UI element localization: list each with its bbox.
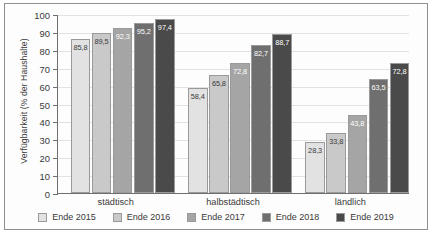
- bar[interactable]: 85,8: [71, 39, 91, 193]
- y-axis-tick-label: 80: [40, 45, 50, 56]
- chart-figure: Verfügbarkeit (% der Haushalte) 01020304…: [4, 3, 428, 230]
- bar-value-label: 63,5: [371, 83, 385, 92]
- bar-value-label: 72,8: [393, 67, 407, 76]
- y-axis-tick-label: 50: [40, 99, 50, 110]
- bar[interactable]: 89,5: [92, 33, 112, 193]
- legend-item[interactable]: Ende 2016: [113, 212, 171, 222]
- y-axis-tick: [53, 194, 58, 195]
- legend-swatch: [336, 213, 345, 222]
- legend-item[interactable]: Ende 2019: [336, 212, 394, 222]
- bar-value-label: 28,3: [308, 146, 322, 155]
- bar-value-label: 82,7: [254, 49, 268, 58]
- bar[interactable]: 88,7: [272, 34, 292, 193]
- plot-area: 010203040506070809010085,889,592,395,297…: [57, 15, 409, 194]
- bar[interactable]: 82,7: [251, 45, 271, 193]
- bar[interactable]: 72,8: [390, 63, 410, 193]
- bar-value-label: 95,2: [137, 27, 151, 36]
- bar[interactable]: 72,8: [230, 63, 250, 193]
- y-axis-tick-label: 60: [40, 81, 50, 92]
- legend-item[interactable]: Ende 2015: [38, 212, 96, 222]
- bar-value-label: 72,8: [233, 67, 247, 76]
- y-axis-tick-label: 90: [40, 27, 50, 38]
- bar[interactable]: 43,8: [348, 115, 368, 193]
- bar[interactable]: 95,2: [134, 23, 154, 193]
- bar-value-label: 97,4: [158, 23, 172, 32]
- y-axis-tick-label: 10: [40, 171, 50, 182]
- legend-swatch: [113, 213, 122, 222]
- bar[interactable]: 63,5: [369, 79, 389, 193]
- bar-group: 85,889,592,395,297,4: [58, 15, 175, 193]
- bar-value-label: 85,8: [73, 43, 87, 52]
- y-axis-tick-label: 20: [40, 153, 50, 164]
- legend-swatch: [38, 213, 47, 222]
- legend-label: Ende 2016: [127, 212, 171, 222]
- bar[interactable]: 28,3: [305, 142, 325, 193]
- bar-value-label: 92,3: [116, 32, 130, 41]
- bar-group: 58,465,872,882,788,7: [175, 15, 292, 193]
- y-axis-tick-label: 100: [34, 10, 50, 21]
- bar-value-label: 58,4: [191, 92, 205, 101]
- legend-label: Ende 2018: [276, 212, 320, 222]
- legend-item[interactable]: Ende 2017: [187, 212, 245, 222]
- y-axis-tick-label: 70: [40, 63, 50, 74]
- bar-group: 28,333,843,863,572,8: [293, 15, 410, 193]
- bar[interactable]: 97,4: [155, 19, 175, 193]
- x-axis-category-label: städtisch: [57, 197, 174, 207]
- bar[interactable]: 58,4: [188, 88, 208, 193]
- bar[interactable]: 33,8: [326, 133, 346, 194]
- bar[interactable]: 65,8: [209, 75, 229, 193]
- bar-value-label: 33,8: [329, 137, 343, 146]
- legend-item[interactable]: Ende 2018: [262, 212, 320, 222]
- legend-swatch: [187, 213, 196, 222]
- legend-label: Ende 2019: [350, 212, 394, 222]
- y-axis-tick-label: 30: [40, 135, 50, 146]
- y-axis-tick-label: 0: [45, 189, 50, 200]
- x-axis-category-label: ländlich: [292, 197, 409, 207]
- y-axis-title: Verfügbarkeit (% der Haushalte): [19, 16, 29, 186]
- legend-swatch: [262, 213, 271, 222]
- bar-value-label: 43,8: [350, 119, 364, 128]
- bar-value-label: 88,7: [275, 38, 289, 47]
- bar[interactable]: 92,3: [113, 28, 133, 193]
- bar-value-label: 65,8: [212, 79, 226, 88]
- legend-label: Ende 2017: [201, 212, 245, 222]
- chart-legend: Ende 2015Ende 2016Ende 2017Ende 2018Ende…: [5, 212, 427, 222]
- y-axis-tick-label: 40: [40, 117, 50, 128]
- x-axis-category-label: halbstädtisch: [174, 197, 291, 207]
- bar-value-label: 89,5: [95, 37, 109, 46]
- legend-label: Ende 2015: [52, 212, 96, 222]
